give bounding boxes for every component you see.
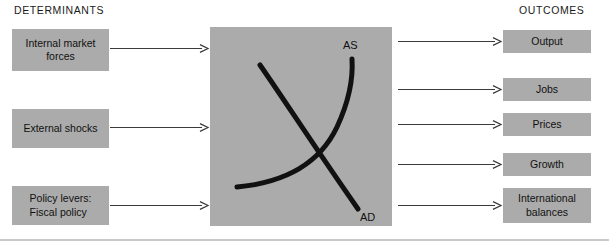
determinant-box-external-shocks: External shocks xyxy=(12,109,109,148)
ad-curve xyxy=(260,65,358,209)
outcome-label-line: Growth xyxy=(530,158,564,172)
outcome-label-line: Prices xyxy=(532,118,561,132)
arrow-panel-to-jobs xyxy=(398,85,502,94)
arrow-external-shocks-to-panel xyxy=(110,123,209,132)
determinants-column-header: DETERMINANTS xyxy=(14,4,104,16)
arrow-panel-to-output xyxy=(398,37,502,46)
bottom-divider-rule xyxy=(0,239,609,241)
arrow-policy-levers-to-panel xyxy=(110,201,209,210)
as-curve xyxy=(237,59,352,187)
outcome-box-growth: Growth xyxy=(503,153,591,176)
as-curve-label: AS xyxy=(343,39,358,51)
outcome-box-jobs: Jobs xyxy=(503,78,591,101)
outcome-label-line: Jobs xyxy=(536,83,558,97)
determinant-label-line: Policy levers: xyxy=(30,192,92,206)
diagram-canvas: DETERMINANTS OUTCOMES Internal market fo… xyxy=(0,0,609,249)
arrow-panel-to-prices xyxy=(398,120,502,129)
outcome-label-line: International xyxy=(518,192,576,206)
outcome-label-line: balances xyxy=(518,206,576,220)
outcome-box-international-balances: International balances xyxy=(503,188,591,223)
determinant-box-internal-market-forces: Internal market forces xyxy=(12,29,109,71)
outcome-label-line: Output xyxy=(531,35,563,49)
ad-curve-label: AD xyxy=(360,211,375,223)
determinant-label-line: Fiscal policy xyxy=(30,206,92,220)
arrow-panel-to-international-balances xyxy=(398,201,502,210)
arrow-internal-market-forces-to-panel xyxy=(110,44,209,53)
outcome-box-prices: Prices xyxy=(503,113,591,136)
determinant-label-line: forces xyxy=(25,50,95,64)
outcome-box-output: Output xyxy=(503,30,591,53)
outcomes-column-header: OUTCOMES xyxy=(519,4,584,16)
determinant-label-line: Internal market xyxy=(25,37,95,51)
determinant-label-line: External shocks xyxy=(23,122,97,136)
determinant-box-policy-levers: Policy levers: Fiscal policy xyxy=(12,186,109,225)
arrow-panel-to-growth xyxy=(398,160,502,169)
as-ad-model-panel: AS AD xyxy=(210,27,392,226)
